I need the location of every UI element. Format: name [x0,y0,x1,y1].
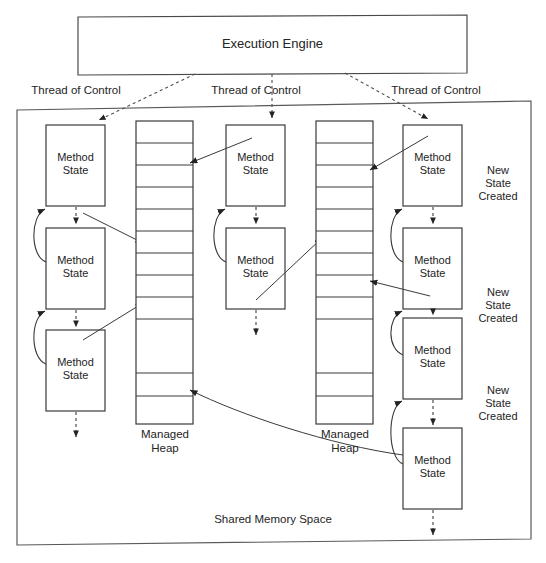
thread-3-method-state-boxes [403,125,462,509]
method-state-label: Method State [403,344,462,370]
thread-of-control-label-3: Thread of Control [378,84,494,98]
method-state-label: Method State [226,151,285,177]
thread-2-managed-heap [316,121,373,424]
method-state-label: Method State [403,254,462,280]
thread-of-control-label-2: Thread of Control [198,84,314,98]
thread-2-return-arcs [214,209,226,262]
thread-1-managed-heap [136,121,193,424]
diagram-canvas: Execution Engine Thread of Control Threa… [0,0,546,563]
shared-memory-space-label: Shared Memory Space [163,513,383,527]
method-state-label: Method State [46,254,105,280]
new-state-created-label: New State Created [470,164,526,203]
thread-1-return-arcs [34,209,46,364]
method-state-label: Method State [226,254,285,280]
thread-of-control-label-1: Thread of Control [18,84,134,98]
managed-heap-label: Managed Heap [130,428,200,455]
new-state-created-label: New State Created [470,286,526,325]
managed-heap-label: Managed Heap [310,428,380,455]
method-state-label: Method State [403,454,462,480]
execution-engine-label: Execution Engine [78,36,467,51]
method-state-label: Method State [46,356,105,382]
new-state-created-label: New State Created [470,384,526,423]
thread-3-return-arcs [391,209,403,464]
method-state-label: Method State [403,151,462,177]
method-state-label: Method State [46,151,105,177]
